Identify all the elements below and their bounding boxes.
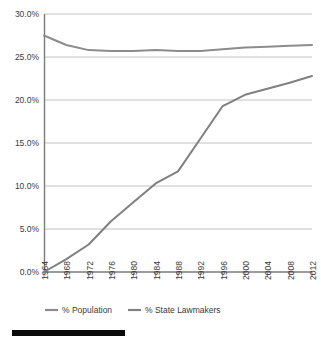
series-line-population xyxy=(44,36,312,51)
x-tick-label: 2000 xyxy=(241,261,251,280)
x-tick-label: 1988 xyxy=(174,261,184,280)
x-axis-labels: 1964 1968 1972 1976 1980 1984 1988 1992 … xyxy=(40,261,318,280)
x-tick-label: 1968 xyxy=(62,261,72,280)
x-tick-label: 2012 xyxy=(308,261,318,280)
y-axis-labels: 30.0% 25.0% 20.0% 15.0% 10.0% 5.0% 0.0% xyxy=(15,9,40,277)
footer-rule-bar xyxy=(12,330,125,336)
chart-legend: % Population % State Lawmakers xyxy=(45,305,221,315)
y-tick-label: 30.0% xyxy=(15,9,40,19)
y-tick-label: 15.0% xyxy=(15,138,40,148)
line-chart: 30.0% 25.0% 20.0% 15.0% 10.0% 5.0% 0.0% xyxy=(0,0,321,343)
x-tick-label: 1984 xyxy=(152,261,162,280)
x-tick-label: 1996 xyxy=(219,261,229,280)
x-tick-label: 1992 xyxy=(196,261,206,280)
chart-figure: 30.0% 25.0% 20.0% 15.0% 10.0% 5.0% 0.0% xyxy=(0,0,321,343)
series-line-lawmakers xyxy=(44,76,312,272)
y-tick-label: 25.0% xyxy=(15,52,40,62)
x-tick-label: 2004 xyxy=(263,261,273,280)
y-tick-label: 10.0% xyxy=(15,181,40,191)
x-tick-label: 1972 xyxy=(85,261,95,280)
y-tick-label: 20.0% xyxy=(15,95,40,105)
legend-label-lawmakers: % State Lawmakers xyxy=(145,305,221,315)
y-tick-label: 5.0% xyxy=(20,224,40,234)
y-tick-label: 0.0% xyxy=(20,267,40,277)
x-tick-label: 1980 xyxy=(129,261,139,280)
legend-label-population: % Population xyxy=(62,305,112,315)
x-tick-label: 2008 xyxy=(286,261,296,280)
x-tick-label: 1976 xyxy=(107,261,117,280)
